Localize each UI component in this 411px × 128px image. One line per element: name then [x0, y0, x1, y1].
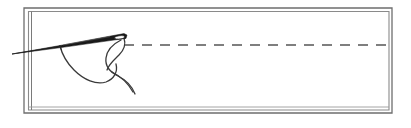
illustration-canvas: [0, 0, 411, 128]
illustration-figure: [0, 0, 411, 128]
figure-background: [0, 0, 411, 128]
